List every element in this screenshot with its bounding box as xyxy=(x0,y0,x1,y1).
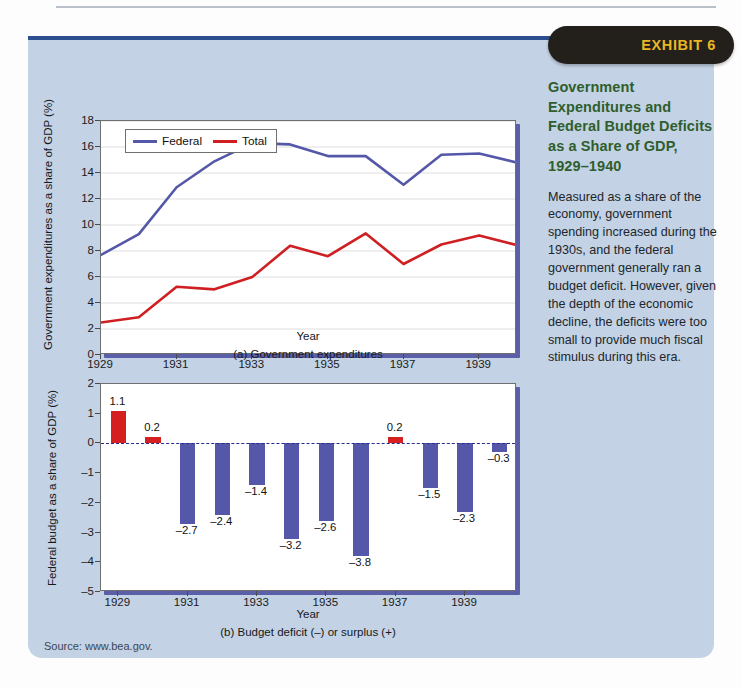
y-tick-mark xyxy=(95,472,100,473)
y-tick-label: 2 xyxy=(60,377,94,389)
chart-budget-deficit: 210–1–2–3–4–5 192919311933193519371939 1… xyxy=(28,370,528,638)
exhibit-heading: Government Expenditures and Federal Budg… xyxy=(548,78,720,177)
x-tick-label: 1939 xyxy=(439,596,489,608)
y-tick-label: –2 xyxy=(60,496,94,508)
y-tick-mark xyxy=(95,276,100,277)
y-tick-label: 18 xyxy=(64,114,94,126)
y-tick-label: 2 xyxy=(64,322,94,334)
exhibit-sidebar: Government Expenditures and Federal Budg… xyxy=(548,78,720,367)
plot-area-b xyxy=(100,383,516,591)
y-axis-title-a: Government expenditures as a share of GD… xyxy=(42,99,54,350)
y-tick-label: 0 xyxy=(60,436,94,448)
x-tick-label: 1933 xyxy=(231,596,281,608)
x-tick-label: 1931 xyxy=(162,596,212,608)
bar-1932 xyxy=(215,443,231,514)
bar-label-1932: –2.4 xyxy=(196,515,246,527)
y-tick-label: 8 xyxy=(64,244,94,256)
bar-label-1929: 1.1 xyxy=(92,395,142,407)
x-axis-title-a: Year xyxy=(100,330,516,342)
y-axis-title-b: Federal budget as a share of GDP (%) xyxy=(46,390,58,586)
bar-label-1936: –3.8 xyxy=(335,556,385,568)
y-tick-mark xyxy=(95,250,100,251)
bar-label-1938: –1.5 xyxy=(404,488,454,500)
legend-label-total: Total xyxy=(242,134,267,148)
legend-swatch-federal xyxy=(133,140,157,143)
y-tick-mark xyxy=(95,532,100,533)
y-tick-label: 12 xyxy=(64,192,94,204)
exhibit-page: EXHIBIT 6 Government Expenditures and Fe… xyxy=(0,0,741,688)
bar-label-1934: –3.2 xyxy=(266,539,316,551)
bar-1931 xyxy=(180,443,196,523)
page-top-rule xyxy=(56,6,716,8)
y-tick-mark xyxy=(95,502,100,503)
y-tick-label: –4 xyxy=(60,555,94,567)
y-tick-label: –5 xyxy=(60,585,94,597)
exhibit-badge-label: EXHIBIT 6 xyxy=(641,37,716,53)
y-tick-mark xyxy=(95,591,100,592)
bar-label-1935: –2.6 xyxy=(300,521,350,533)
exhibit-description: Measured as a share of the economy, gove… xyxy=(548,189,720,368)
chart-government-expenditures: Federal Total 024681012141618 1929193119… xyxy=(28,58,528,363)
y-tick-label: 10 xyxy=(64,218,94,230)
y-tick-mark xyxy=(95,224,100,225)
bar-1934 xyxy=(284,443,300,538)
bar-1936 xyxy=(353,443,369,556)
y-tick-mark xyxy=(95,561,100,562)
x-axis-title-b: Year xyxy=(100,608,516,620)
chart-a-legend: Federal Total xyxy=(125,129,277,153)
x-tick-label: 1937 xyxy=(370,596,420,608)
y-tick-mark xyxy=(95,383,100,384)
y-tick-label: –1 xyxy=(60,466,94,478)
y-tick-mark xyxy=(95,120,100,121)
y-tick-mark xyxy=(95,442,100,443)
x-tick-label: 1929 xyxy=(92,596,142,608)
x-tick-label: 1935 xyxy=(300,596,350,608)
y-tick-label: 4 xyxy=(64,296,94,308)
y-tick-label: 14 xyxy=(64,166,94,178)
y-tick-mark xyxy=(95,146,100,147)
bar-1929 xyxy=(111,411,127,444)
bar-1939 xyxy=(457,443,473,511)
y-tick-label: 6 xyxy=(64,270,94,282)
exhibit-badge: EXHIBIT 6 xyxy=(548,26,734,64)
line-chart-svg xyxy=(101,121,516,354)
bar-1938 xyxy=(423,443,439,488)
bar-label-1937: 0.2 xyxy=(370,421,420,433)
legend-item-total: Total xyxy=(213,134,267,148)
bar-1935 xyxy=(319,443,335,520)
chart-b-caption: (b) Budget deficit (–) or surplus (+) xyxy=(100,626,516,638)
y-tick-label: 16 xyxy=(64,140,94,152)
bar-label-1930: 0.2 xyxy=(127,421,177,433)
y-tick-mark xyxy=(95,302,100,303)
legend-item-federal: Federal xyxy=(133,134,202,148)
legend-label-federal: Federal xyxy=(162,134,202,148)
source-note: Source: www.bea.gov. xyxy=(44,640,153,652)
y-tick-label: –3 xyxy=(60,526,94,538)
y-tick-mark xyxy=(95,413,100,414)
bar-label-1939: –2.3 xyxy=(439,512,489,524)
plot-area-a: Federal Total xyxy=(100,120,516,354)
y-tick-label: 1 xyxy=(60,407,94,419)
legend-swatch-total xyxy=(213,140,237,143)
bar-1933 xyxy=(249,443,265,485)
bar-label-1933: –1.4 xyxy=(231,485,281,497)
y-tick-mark xyxy=(95,328,100,329)
chart-a-caption: (a) Government expenditures xyxy=(100,348,516,360)
y-tick-mark xyxy=(95,198,100,199)
y-tick-mark xyxy=(95,172,100,173)
zero-line xyxy=(101,443,515,444)
bar-label-1940: –0.3 xyxy=(474,452,524,464)
bar-1940 xyxy=(492,443,508,452)
